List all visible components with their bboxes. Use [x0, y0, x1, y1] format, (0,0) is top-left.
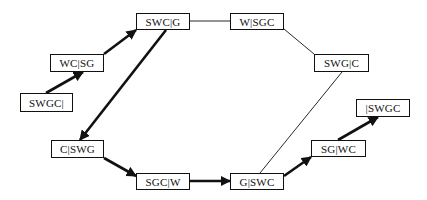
bold-arrow-edge [284, 157, 311, 176]
thin-line-edge [284, 29, 314, 54]
state-node-g-swc: G|SWC [230, 173, 284, 190]
bold-arrow-edge [104, 30, 136, 54]
state-node-swc-g: SWC|G [136, 13, 190, 30]
thin-line-edge [260, 72, 342, 173]
state-node-c-swg: C|SWG [51, 140, 104, 158]
bold-arrow-edge [46, 72, 83, 93]
state-node-sgc-w: SGC|W [136, 173, 190, 190]
state-node-wc-sg: WC|SG [50, 54, 104, 72]
state-node-swg-c: SWG|C [314, 54, 369, 72]
bold-arrow-edge [104, 158, 136, 176]
state-node-swgc-left: SWGC| [20, 93, 73, 112]
state-node-w-sgc: W|SGC [230, 13, 284, 30]
bold-arrow-edge [338, 117, 378, 140]
state-node-sg-wc: SG|WC [311, 140, 366, 157]
bold-arrow-edge [80, 30, 166, 140]
state-node-swgc-right: |SWGC [356, 99, 410, 117]
